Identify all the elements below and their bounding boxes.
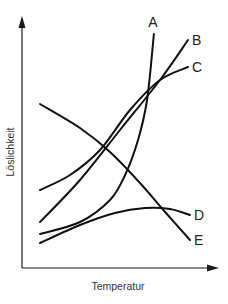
series-label-c: C bbox=[192, 59, 202, 75]
y-axis-label: Löslichkeit bbox=[4, 127, 16, 176]
series-label-d: D bbox=[194, 207, 204, 223]
solubility-chart: ABCDE Temperatur Löslichkeit bbox=[0, 0, 228, 304]
curve-d bbox=[40, 208, 190, 243]
x-axis-arrow-icon bbox=[207, 265, 219, 272]
x-axis bbox=[22, 265, 219, 272]
series-label-a: A bbox=[148, 14, 158, 30]
curve-c bbox=[40, 67, 188, 190]
y-axis bbox=[19, 16, 26, 268]
x-axis-label: Temperatur bbox=[91, 280, 145, 292]
y-axis-arrow-icon bbox=[19, 16, 26, 28]
series-labels: ABCDE bbox=[148, 14, 204, 248]
curves bbox=[40, 34, 190, 243]
curve-e bbox=[40, 104, 190, 240]
series-label-b: B bbox=[192, 32, 201, 48]
series-label-e: E bbox=[194, 232, 203, 248]
